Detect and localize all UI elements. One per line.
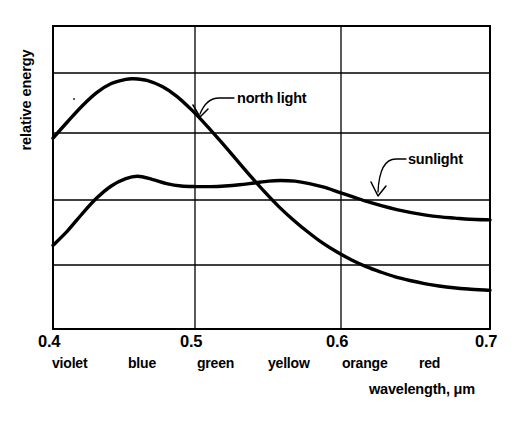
band-label-orange: orange — [342, 355, 387, 371]
curve-sunlight — [53, 176, 490, 245]
sunlight-callout — [371, 159, 406, 196]
north-light-callout — [193, 98, 234, 117]
x-tick-label-0: 0.4 — [38, 332, 60, 351]
x-tick-label-1: 0.5 — [180, 332, 202, 351]
data-curves — [53, 79, 490, 291]
x-tick-label-2: 0.6 — [326, 332, 348, 351]
band-label-blue: blue — [128, 355, 156, 371]
annotation-sunlight: sunlight — [408, 151, 463, 167]
band-label-red: red — [419, 355, 440, 371]
y-axis-label: relative energy — [18, 30, 34, 170]
x-axis-label: wavelength, μm — [369, 381, 475, 397]
annotation-north-light: north light — [237, 90, 306, 106]
spectral-energy-chart: relative energy north light sunlight 0.4… — [0, 0, 531, 421]
band-label-green: green — [197, 355, 234, 371]
band-label-violet: violet — [52, 355, 87, 371]
band-label-yellow: yellow — [268, 355, 310, 371]
scan-speck — [73, 98, 75, 100]
curve-north-light — [53, 79, 490, 291]
x-tick-label-3: 0.7 — [475, 332, 497, 351]
